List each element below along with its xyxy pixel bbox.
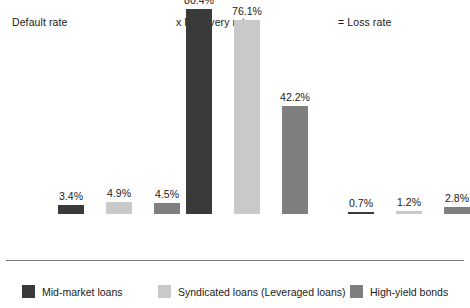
bar: 42.2% [282, 106, 308, 214]
bar-chart: Default rate x Recovery rate = Loss rate… [0, 0, 470, 308]
bar-value-label: 3.4% [59, 190, 83, 202]
bar-rect [396, 211, 422, 214]
bar: 4.5% [154, 203, 180, 214]
legend-item-label: High-yield bonds [370, 286, 448, 298]
bar-rect [186, 9, 212, 214]
bar-rect [348, 212, 374, 214]
bar-rect [282, 106, 308, 214]
legend-item-syndicated-loans[interactable]: Syndicated loans (Leveraged loans) [158, 285, 346, 298]
legend: Mid-market loans Syndicated loans (Lever… [0, 281, 470, 308]
bar-value-label: 4.9% [107, 187, 131, 199]
bar: 1.2% [396, 211, 422, 214]
bar: 76.1% [234, 20, 260, 214]
bar-value-label: 80.4% [184, 0, 214, 6]
bar-value-label: 2.8% [445, 192, 469, 204]
bar-value-label: 0.7% [349, 197, 373, 209]
bar-value-label: 4.5% [155, 188, 179, 200]
bar-rect [154, 203, 180, 214]
bar-rect [58, 205, 84, 214]
bar: 2.8% [444, 207, 470, 214]
legend-swatch-icon [158, 285, 171, 298]
bar: 80.4% [186, 9, 212, 214]
bar-value-label: 42.2% [280, 91, 310, 103]
legend-item-label: Syndicated loans (Leveraged loans) [178, 286, 346, 298]
bar: 4.9% [106, 202, 132, 214]
legend-item-label: Mid-market loans [42, 286, 123, 298]
plot-area: 3.4%4.9%4.5%80.4%76.1%42.2%0.7%1.2%2.8% [0, 0, 470, 262]
bar-rect [234, 20, 260, 214]
bar-rect [444, 207, 470, 214]
legend-swatch-icon [22, 285, 35, 298]
legend-swatch-icon [350, 285, 363, 298]
bar: 0.7% [348, 212, 374, 214]
bar-value-label: 1.2% [397, 196, 421, 208]
x-axis-line [6, 260, 464, 261]
bar-rect [106, 202, 132, 214]
legend-item-high-yield-bonds[interactable]: High-yield bonds [350, 285, 448, 298]
bar-value-label: 76.1% [232, 5, 262, 17]
legend-item-mid-market-loans[interactable]: Mid-market loans [22, 285, 123, 298]
bar: 3.4% [58, 205, 84, 214]
